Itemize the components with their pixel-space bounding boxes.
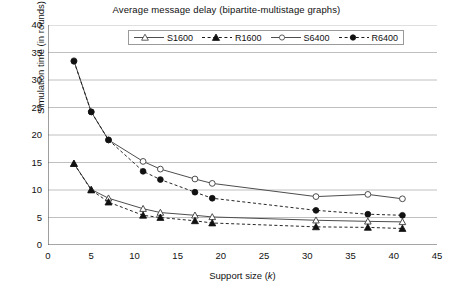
x-tick-label: 40	[381, 251, 407, 261]
data-point	[192, 189, 198, 195]
legend-label-s6400: S6400	[304, 33, 330, 43]
chart-figure: Average message delay (bipartite-multist…	[0, 0, 453, 295]
plot-canvas	[48, 25, 437, 245]
y-tick-label: 25	[0, 103, 42, 113]
data-point	[192, 176, 198, 182]
y-tick-label: 30	[0, 75, 42, 85]
data-point	[106, 137, 112, 143]
data-point	[209, 195, 215, 201]
data-point	[88, 109, 94, 115]
series-line-r1600	[74, 164, 402, 229]
x-tick-label: 25	[251, 251, 277, 261]
legend-label-r6400: R6400	[372, 33, 399, 43]
x-axis-title: Support size (k)	[48, 270, 437, 281]
x-tick-label: 45	[424, 251, 450, 261]
x-axis-title-close: )	[273, 270, 276, 281]
x-tick-label: 15	[165, 251, 191, 261]
data-point	[400, 196, 406, 202]
data-point	[157, 166, 163, 172]
data-point	[365, 192, 371, 198]
series-markers-r6400	[71, 58, 405, 218]
legend-item-r1600: R1600	[202, 32, 262, 43]
legend-marker-filled-triangle-icon	[202, 32, 232, 43]
y-tick-label: 10	[0, 185, 42, 195]
series-line-s1600	[74, 164, 402, 222]
data-point	[140, 168, 146, 174]
data-point	[364, 224, 371, 230]
x-tick-label: 35	[338, 251, 364, 261]
plot-area	[48, 25, 437, 245]
chart-title: Average message delay (bipartite-multist…	[0, 4, 453, 15]
y-tick-label: 40	[0, 20, 42, 30]
data-point	[140, 159, 146, 165]
y-tick-label: 5	[0, 213, 42, 223]
x-tick-label: 0	[35, 251, 61, 261]
y-tick-label: 0	[0, 240, 42, 250]
series-markers-s1600	[71, 160, 406, 224]
series-line-s6400	[74, 61, 402, 199]
data-point	[313, 207, 319, 213]
x-tick-label: 5	[78, 251, 104, 261]
data-point	[70, 160, 77, 166]
x-tick-label: 20	[208, 251, 234, 261]
series-line-r6400	[74, 61, 402, 215]
legend-label-s1600: S1600	[167, 33, 193, 43]
data-point	[157, 177, 163, 183]
data-point	[400, 212, 406, 218]
legend-label-r1600: R1600	[235, 33, 262, 43]
data-point	[209, 181, 215, 187]
legend-marker-open-triangle-icon	[134, 32, 164, 43]
data-point	[313, 194, 319, 200]
series-markers-s6400	[71, 58, 405, 202]
legend-item-r6400: R6400	[339, 32, 399, 43]
legend-marker-open-circle-icon	[271, 32, 301, 43]
data-point	[365, 211, 371, 217]
legend-item-s6400: S6400	[271, 32, 330, 43]
data-point	[71, 58, 77, 64]
legend-marker-filled-circle-icon	[339, 32, 369, 43]
y-tick-label: 35	[0, 48, 42, 58]
x-tick-label: 30	[294, 251, 320, 261]
chart-legend: S1600 R1600 S6400	[128, 30, 404, 45]
y-tick-label: 15	[0, 158, 42, 168]
x-axis-title-text: Support size (	[209, 270, 268, 281]
y-tick-label: 20	[0, 130, 42, 140]
legend-item-s1600: S1600	[134, 32, 193, 43]
data-point	[140, 212, 147, 218]
x-tick-label: 10	[121, 251, 147, 261]
